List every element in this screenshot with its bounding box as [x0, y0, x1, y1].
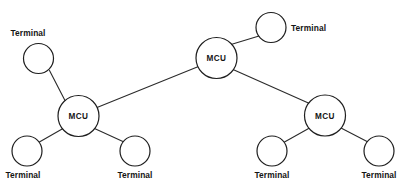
node-term-top-left[interactable]	[24, 44, 54, 74]
connection-line-mcu-left-to-mcu-center	[97, 67, 199, 108]
terminal-label-term-bot-4: Terminal	[361, 170, 396, 180]
node-mcu-center[interactable]: MCU	[196, 38, 237, 79]
node-mcu-right[interactable]: MCU	[305, 95, 346, 136]
diagram-canvas: MCUMCUMCU TerminalTerminalTerminalTermin…	[0, 0, 408, 189]
node-term-top-right[interactable]	[256, 13, 286, 43]
node-term-bot-3[interactable]	[257, 136, 287, 166]
terminal-node-circle[interactable]	[256, 13, 286, 43]
terminal-node-circle[interactable]	[364, 136, 394, 166]
terminal-node-circle[interactable]	[12, 136, 42, 166]
terminal-label-term-bot-1: Terminal	[5, 170, 40, 180]
terminal-label-term-top-right: Terminal	[291, 23, 326, 33]
network-topology-diagram: MCUMCUMCU TerminalTerminalTerminalTermin…	[0, 0, 408, 189]
node-term-bot-2[interactable]	[120, 136, 150, 166]
node-term-bot-1[interactable]	[12, 136, 42, 166]
connection-line-mcu-left-to-term-bot-1	[39, 129, 64, 143]
terminal-label-term-bot-3: Terminal	[254, 170, 289, 180]
connection-line-mcu-left-to-term-top-left	[50, 71, 66, 102]
terminal-node-circle[interactable]	[257, 136, 287, 166]
node-term-bot-4[interactable]	[364, 136, 394, 166]
terminal-node-circle[interactable]	[24, 44, 54, 74]
nodes-layer: MCUMCUMCU	[12, 13, 394, 167]
terminal-node-circle[interactable]	[120, 136, 150, 166]
mcu-node-label: MCU	[69, 112, 89, 121]
mcu-node-label: MCU	[315, 112, 335, 121]
connection-line-mcu-right-to-term-bot-3	[285, 128, 310, 142]
connection-line-mcu-right-to-term-bot-4	[341, 128, 368, 142]
node-mcu-left[interactable]: MCU	[58, 96, 99, 137]
terminal-label-term-top-left: Terminal	[10, 28, 45, 38]
connection-line-mcu-left-to-term-bot-2	[95, 129, 125, 143]
connection-line-mcu-center-to-term-top-right	[231, 36, 259, 45]
connection-line-mcu-center-to-mcu-right	[233, 70, 310, 104]
terminal-label-term-bot-2: Terminal	[117, 170, 152, 180]
mcu-node-label: MCU	[207, 54, 227, 63]
